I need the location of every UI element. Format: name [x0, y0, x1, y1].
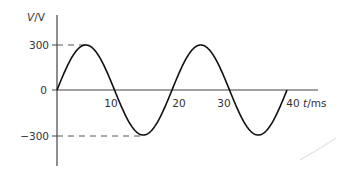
y-tick-label-neg300: −300 — [20, 130, 49, 142]
x-tick-label-30: 30 — [217, 97, 230, 109]
x-axis-label: t/ms — [303, 97, 326, 109]
decorative-faint-stroke — [300, 138, 336, 160]
x-tick-label-40: 40 — [286, 97, 299, 109]
sine-wave-chart: V/V 300 0 −300 10 20 30 40 t/ms — [0, 0, 339, 177]
y-tick-label-0: 0 — [40, 84, 47, 96]
y-tick-label-300: 300 — [29, 39, 49, 51]
x-tick-label-20: 20 — [172, 97, 185, 109]
y-axis-label: V/V — [27, 11, 46, 23]
x-tick-label-10: 10 — [104, 97, 117, 109]
